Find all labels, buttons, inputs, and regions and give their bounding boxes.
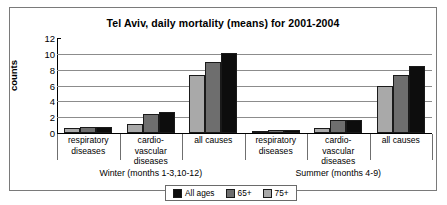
bar — [393, 75, 409, 133]
category-label: cardio-vasculardiseases — [307, 134, 370, 172]
bar-group — [370, 38, 433, 133]
bar-group — [307, 38, 370, 133]
bar — [314, 128, 330, 133]
legend-item: All ages — [173, 188, 215, 198]
legend-label: 65+ — [238, 188, 252, 198]
bar — [284, 130, 300, 133]
season-label: Summer (months 4-9) — [245, 168, 433, 178]
legend-swatch-icon — [263, 189, 272, 198]
bar — [80, 127, 96, 133]
y-tick-label-4: 4 — [13, 96, 55, 107]
y-tick-label-12: 12 — [13, 33, 55, 44]
category-label: all causes — [182, 134, 245, 172]
season-label: Winter (months 1-3,10-12) — [57, 168, 245, 178]
bar — [189, 75, 205, 133]
chart-title: Tel Aviv, daily mortality (means) for 20… — [10, 17, 436, 29]
bar-group — [245, 38, 308, 133]
category-separator — [432, 134, 433, 160]
y-tick-label-2: 2 — [13, 112, 55, 123]
legend-label: 75+ — [275, 188, 289, 198]
bar — [127, 124, 143, 133]
category-separator — [120, 134, 121, 160]
category-separator — [370, 134, 371, 160]
category-label: cardio-vasculardiseases — [120, 134, 183, 172]
bar — [268, 130, 284, 133]
bar-group — [182, 38, 245, 133]
y-axis-tick-labels: 121086420 — [10, 38, 55, 133]
bar — [252, 131, 268, 133]
y-tick-label-6: 6 — [13, 80, 55, 91]
bar — [64, 128, 80, 133]
bar — [221, 53, 237, 133]
y-tick-label-8: 8 — [13, 64, 55, 75]
category-separator — [182, 134, 183, 160]
bar-group — [120, 38, 183, 133]
legend-item: 65+ — [226, 188, 252, 198]
bar-group — [57, 38, 120, 133]
category-label: respiratorydiseases — [57, 134, 120, 172]
chart-legend: All ages65+75+ — [165, 185, 297, 201]
legend-swatch-icon — [173, 189, 182, 198]
bar — [96, 127, 112, 133]
bar — [346, 120, 362, 133]
bar — [409, 66, 425, 133]
bar — [377, 86, 393, 133]
bar — [330, 120, 346, 133]
season-label-band: Winter (months 1-3,10-12)Summer (months … — [57, 168, 432, 182]
category-label: all causes — [370, 134, 433, 172]
bar — [159, 112, 175, 133]
bar — [205, 62, 221, 133]
category-separator — [307, 134, 308, 160]
category-label-band: respiratorydiseasescardio-vasculardiseas… — [57, 134, 432, 172]
y-tick-label-10: 10 — [13, 48, 55, 59]
y-tick-label-0: 0 — [13, 128, 55, 139]
legend-item: 75+ — [263, 188, 289, 198]
category-separator — [245, 134, 246, 160]
legend-swatch-icon — [226, 189, 235, 198]
bar — [143, 114, 159, 133]
category-separator — [57, 134, 58, 160]
plot-area — [57, 38, 432, 133]
chart-frame: Tel Aviv, daily mortality (means) for 20… — [9, 7, 437, 191]
legend-label: All ages — [185, 188, 215, 198]
category-label: respiratorydiseases — [245, 134, 308, 172]
